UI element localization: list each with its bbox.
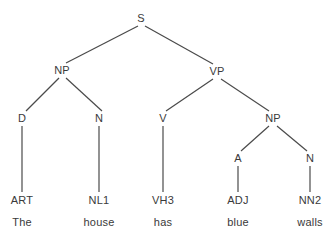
word-the: The	[12, 217, 32, 228]
pos-tag-nn2: NN2	[299, 195, 322, 206]
node-s: S	[137, 13, 145, 24]
word-has: has	[154, 217, 172, 228]
edge-vp-to-np-object	[221, 79, 269, 111]
pos-tag-adj: ADJ	[227, 195, 248, 206]
edge-np-object-to-a	[241, 126, 269, 151]
edge-vp-to-v	[166, 79, 213, 111]
edge-np-subject-to-n-subject	[66, 78, 102, 111]
node-vp: VP	[209, 66, 224, 77]
edge-np-object-to-n-object	[277, 126, 307, 151]
syntax-tree-figure: S NP VP D N V NP A N ART NL1 VH3 ADJ NN2…	[0, 0, 333, 241]
pos-tag-nl1: NL1	[89, 195, 110, 206]
node-n-subject: N	[95, 113, 103, 124]
word-house: house	[84, 217, 115, 228]
pos-tag-vh3: VH3	[152, 195, 174, 206]
node-d: D	[18, 113, 26, 124]
pos-tag-art: ART	[11, 195, 33, 206]
node-np-object: NP	[265, 113, 281, 124]
word-walls: walls	[297, 217, 322, 228]
edge-s-to-vp	[145, 26, 213, 64]
node-np-subject: NP	[54, 65, 70, 76]
node-a: A	[234, 153, 242, 164]
edge-s-to-np-subject	[66, 26, 138, 63]
node-n-object: N	[306, 153, 314, 164]
edge-np-subject-to-d	[26, 78, 59, 111]
node-v: V	[159, 113, 167, 124]
word-blue: blue	[227, 217, 249, 228]
